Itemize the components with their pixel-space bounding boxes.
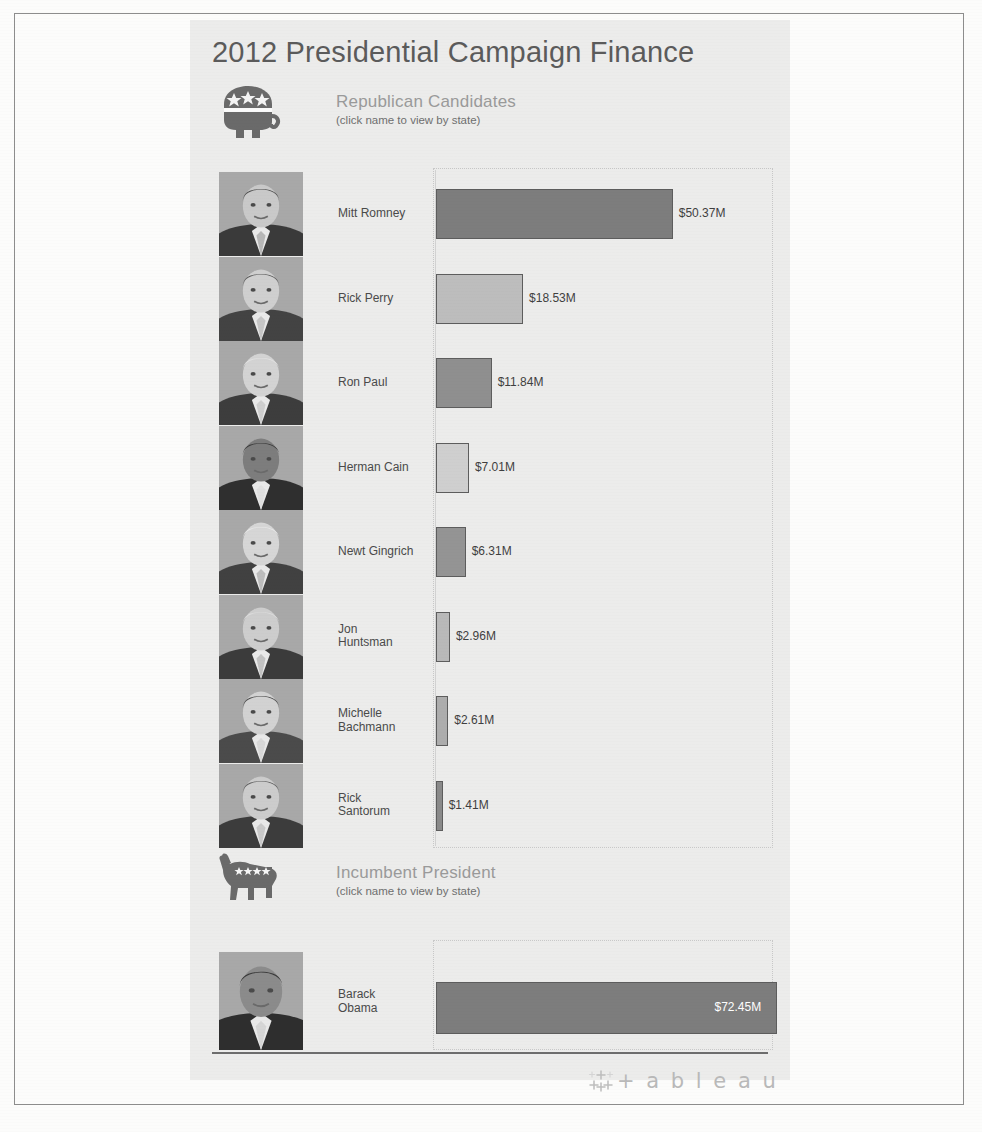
bar-value-label: $2.61M [454, 713, 494, 727]
scanned-page: 2012 Presidential Campaign Finance Repub… [0, 0, 982, 1132]
candidate-bar[interactable] [436, 696, 448, 746]
republican-section-subtitle: (click name to view by state) [336, 114, 516, 126]
candidate-name-line2: Huntsman [338, 635, 393, 649]
candidate-bar[interactable] [436, 781, 443, 831]
democrat-section-subtitle: (click name to view by state) [336, 885, 496, 897]
democrat-section-header: Incumbent President (click name to view … [336, 863, 496, 897]
candidate-bar[interactable] [436, 443, 469, 493]
incumbent-bar-value-label: $72.45M [715, 1000, 762, 1014]
bar-value-label: $6.31M [472, 544, 512, 558]
bar-value-label: $18.53M [529, 291, 576, 305]
candidate-name-link[interactable]: Rick Perry [338, 292, 443, 306]
footer-divider [212, 1052, 768, 1054]
tableau-dashboard: 2012 Presidential Campaign Finance Repub… [190, 20, 790, 1080]
candidate-name-link[interactable]: MichelleBachmann [338, 707, 443, 734]
candidate-photo [219, 426, 303, 510]
republican-elephant-icon [214, 82, 282, 142]
incumbent-photo [219, 952, 303, 1050]
republican-section-title: Republican Candidates [336, 92, 516, 112]
candidate-name-line1: Michelle [338, 706, 382, 720]
candidate-name-line1: Rick [338, 791, 361, 805]
candidate-name-line2: Bachmann [338, 720, 395, 734]
tableau-logo[interactable]: + a b l e a u [588, 1068, 778, 1094]
tableau-sparkle-icon [588, 1068, 614, 1094]
bar-value-label: $50.37M [679, 206, 726, 220]
tableau-wordmark: + a b l e a u [617, 1069, 778, 1093]
candidate-name-line1: Herman Cain [338, 460, 409, 474]
candidate-bar[interactable] [436, 274, 523, 324]
bar-value-label: $11.84M [498, 375, 544, 389]
democrat-section-title: Incumbent President [336, 863, 496, 883]
candidate-name-line1: Ron Paul [338, 375, 387, 389]
candidate-name-link[interactable]: Ron Paul [338, 376, 443, 390]
candidate-photo [219, 257, 303, 341]
candidate-name-link[interactable]: Herman Cain [338, 461, 443, 475]
candidate-photo [219, 172, 303, 256]
candidate-name-line1: Jon [338, 622, 357, 636]
candidate-photo [219, 679, 303, 763]
republican-section-header: Republican Candidates (click name to vie… [336, 92, 516, 126]
democrat-donkey-icon [214, 852, 282, 912]
candidate-photo [219, 595, 303, 679]
candidate-name-line1: Newt Gingrich [338, 544, 413, 558]
candidate-name-link[interactable]: JonHuntsman [338, 623, 443, 650]
republican-plot-frame [433, 168, 773, 848]
bar-value-label: $2.96M [456, 629, 496, 643]
bar-value-label: $1.41M [449, 798, 489, 812]
incumbent-name-line1: Barack [338, 987, 375, 1001]
candidate-bar[interactable] [436, 527, 466, 577]
candidate-name-link[interactable]: Mitt Romney [338, 207, 443, 221]
candidate-photo [219, 510, 303, 594]
candidate-bar[interactable] [436, 612, 450, 662]
incumbent-name-link[interactable]: BarackObama [338, 988, 443, 1015]
candidate-bar[interactable] [436, 358, 492, 408]
candidate-name-link[interactable]: RickSantorum [338, 792, 443, 819]
candidate-photo [219, 341, 303, 425]
candidate-name-line1: Rick Perry [338, 291, 393, 305]
candidate-photo [219, 764, 303, 848]
candidate-name-line1: Mitt Romney [338, 206, 405, 220]
candidate-name-line2: Santorum [338, 804, 390, 818]
page-title: 2012 Presidential Campaign Finance [212, 36, 694, 69]
bar-value-label: $7.01M [475, 460, 515, 474]
candidate-bar[interactable] [436, 189, 673, 239]
incumbent-name-line2: Obama [338, 1001, 377, 1015]
candidate-name-link[interactable]: Newt Gingrich [338, 545, 443, 559]
